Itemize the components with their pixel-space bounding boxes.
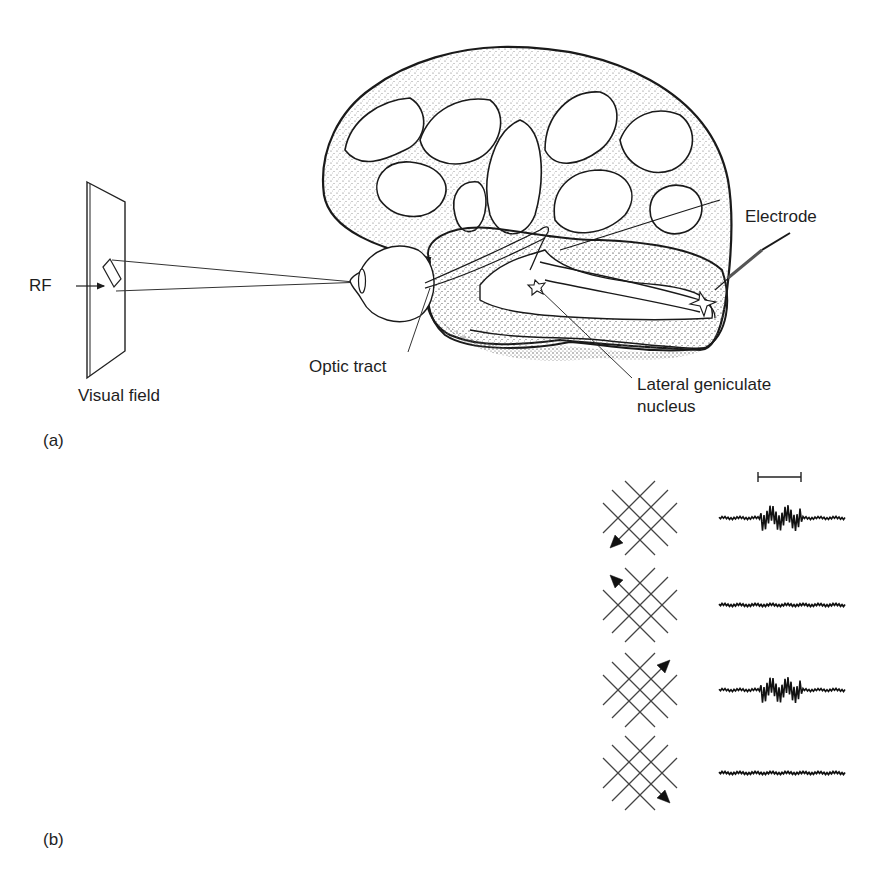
plaid-stimulus-down-left [603,481,677,555]
electrode-label: Electrode [745,207,817,227]
rf-label: RF [29,276,52,296]
scale-bar [758,472,801,482]
panel-a-label: (a) [43,431,64,451]
visual-field-label: Visual field [78,386,160,406]
plaid-stimulus-up-right [603,653,677,727]
lgn-label-line2: nucleus [637,397,696,417]
response-trace [719,505,845,531]
response-trace [719,771,845,774]
optic-tract-label: Optic tract [309,357,386,377]
response-trace [719,603,845,606]
brain-illustration [323,47,731,361]
lgn-label-line1: Lateral geniculate [637,375,771,395]
response-trace [719,677,845,703]
plaid-stimulus-down-right [603,736,677,810]
figure-canvas [0,0,876,872]
plaid-stimulus-up-left [603,568,677,642]
panel-b-label: (b) [43,830,64,850]
eye-icon [350,246,434,322]
